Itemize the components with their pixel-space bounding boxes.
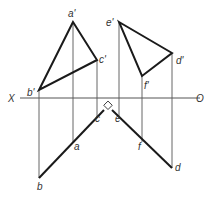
projection-diagram: X O a' b' c' e' d' f' b a c e f d [0, 0, 212, 199]
triangle-abc-front [39, 22, 97, 90]
axis-label-x: X [7, 93, 15, 104]
label-e-prime: e' [106, 17, 115, 28]
label-c-prime: c' [99, 54, 107, 65]
diagram-canvas: X O a' b' c' e' d' f' b a c e f d [0, 0, 212, 199]
label-b-prime: b' [27, 87, 36, 98]
right-angle-icon [104, 101, 112, 109]
label-c: c [95, 113, 100, 124]
label-a: a [74, 141, 80, 152]
label-f: f [138, 141, 142, 152]
label-d: d [175, 162, 181, 173]
label-b: b [37, 181, 43, 192]
label-f-prime: f' [144, 80, 150, 91]
label-a-prime: a' [68, 8, 77, 19]
axis-label-o: O [196, 93, 204, 104]
projector-lines [39, 22, 172, 178]
label-d-prime: d' [176, 55, 185, 66]
label-e: e [115, 113, 121, 124]
triangle-def-front [119, 22, 172, 76]
